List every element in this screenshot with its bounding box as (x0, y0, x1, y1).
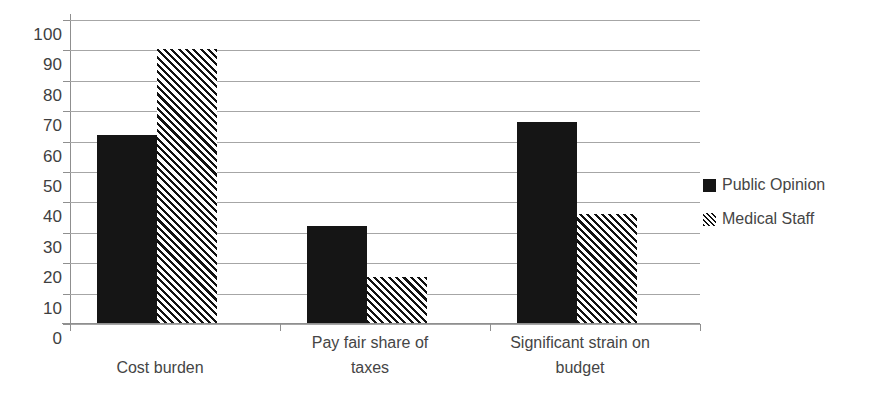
category-label-line: taxes (265, 355, 475, 380)
bar (97, 135, 157, 323)
x-axis-category-label: Significant strain onbudget (475, 330, 685, 380)
y-axis-tick-label: 100 (33, 26, 62, 43)
chart-legend: Public OpinionMedical Staff (703, 168, 878, 236)
legend-solid-square-icon (703, 179, 716, 192)
y-axis-tick-label: 40 (43, 208, 62, 225)
category-label-line: Significant strain on (475, 330, 685, 355)
y-axis-line (70, 14, 71, 324)
y-axis-tick-80 (63, 81, 70, 82)
gridline-0 (70, 324, 700, 325)
y-axis-tick-label: 80 (43, 86, 62, 103)
y-axis-tick-70 (63, 111, 70, 112)
legend-item[interactable]: Medical Staff (703, 202, 878, 236)
y-axis-tick-labels: 0102030405060708090100 (14, 14, 62, 324)
bar (367, 277, 427, 323)
bar (517, 122, 577, 323)
y-axis-tick-20 (63, 263, 70, 264)
y-axis-tick-label: 0 (52, 330, 62, 347)
x-axis-tick (700, 324, 701, 331)
y-axis-tick-90 (63, 50, 70, 51)
category-label-line: Cost burden (55, 355, 265, 380)
y-axis-tick-label: 70 (43, 117, 62, 134)
y-axis-tick-30 (63, 233, 70, 234)
legend-label: Medical Staff (722, 210, 814, 228)
y-axis-tick-label: 30 (43, 238, 62, 255)
x-axis-category-label: Cost burden (55, 355, 265, 380)
x-axis-category-label: Pay fair share oftaxes (265, 330, 475, 380)
y-axis-tick-60 (63, 142, 70, 143)
category-label-line: Pay fair share of (265, 330, 475, 355)
legend-item[interactable]: Public Opinion (703, 168, 878, 202)
x-axis-category-labels: Cost burdenPay fair share oftaxesSignifi… (70, 330, 700, 410)
y-axis-tick-50 (63, 172, 70, 173)
y-axis-tick-label: 20 (43, 269, 62, 286)
bar (307, 226, 367, 323)
plot-area (70, 20, 700, 324)
y-axis-tick-label: 10 (43, 299, 62, 316)
y-axis-tick-label: 90 (43, 56, 62, 73)
bar (577, 214, 637, 323)
bar (157, 49, 217, 323)
category-label-line: budget (475, 355, 685, 380)
y-axis-tick-label: 60 (43, 147, 62, 164)
legend-hatched-square-icon (703, 213, 716, 226)
legend-label: Public Opinion (722, 176, 825, 194)
y-axis-tick-100 (63, 20, 70, 21)
y-axis-tick-0 (63, 324, 70, 325)
bar-chart: 0102030405060708090100 Cost burdenPay fa… (0, 0, 886, 419)
y-axis-tick-40 (63, 202, 70, 203)
gridline-100 (70, 20, 700, 21)
y-axis-tick-10 (63, 294, 70, 295)
y-axis-tick-label: 50 (43, 178, 62, 195)
